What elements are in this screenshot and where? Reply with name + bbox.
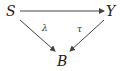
node-s: S	[6, 4, 16, 18]
node-y: Y	[106, 4, 115, 18]
node-b: B	[57, 54, 67, 68]
label-lambda: λ	[42, 24, 48, 33]
arrow-s-to-b	[20, 20, 55, 51]
arrow-y-to-b	[70, 20, 104, 51]
label-tau: τ	[77, 25, 82, 34]
